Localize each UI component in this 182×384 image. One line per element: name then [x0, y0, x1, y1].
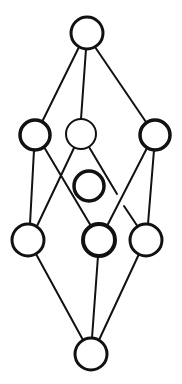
node-mid-center — [66, 119, 96, 149]
edge-mid-left-to-low-left — [30, 150, 34, 224]
node-isolated — [74, 171, 104, 201]
node-low-left — [12, 224, 44, 256]
edge-top-to-mid-left — [42, 47, 79, 122]
edge-mid-right-to-low-right — [148, 150, 154, 224]
node-mid-right — [140, 120, 170, 150]
node-mid-left — [20, 120, 50, 150]
edge-low-left-to-bottom — [36, 254, 83, 340]
edge-top-to-mid-center — [81, 49, 86, 119]
edge-top-to-mid-right — [95, 47, 146, 122]
node-top — [71, 17, 103, 49]
edge-low-right-to-bottom — [99, 254, 139, 340]
lattice-diagram — [0, 0, 182, 384]
node-low-right — [130, 224, 162, 256]
node-bottom — [75, 338, 107, 370]
edge-low-center-to-bottom — [92, 256, 98, 338]
node-low-center — [83, 224, 115, 256]
edge-mid-center-to-low-right — [124, 206, 138, 227]
nodes-group — [12, 17, 170, 370]
